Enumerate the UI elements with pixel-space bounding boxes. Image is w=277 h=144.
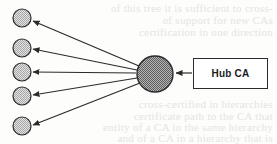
spoke-nodes-group [13, 9, 31, 135]
spoke-ca-node-1[interactable] [13, 9, 31, 27]
spoke-ca-node-2[interactable] [13, 39, 31, 57]
hub-ca-node[interactable] [137, 56, 173, 92]
spoke-arrows-group [33, 21, 140, 125]
arrow-hub-to-spoke-2 [33, 49, 137, 70]
spoke-ca-node-3[interactable] [13, 63, 31, 81]
figure-canvas: of this tree it is sufficient to cross- … [0, 0, 277, 144]
arrow-hub-to-spoke-5 [33, 83, 140, 125]
arrow-hub-to-spoke-4 [33, 78, 137, 95]
arrow-hub-to-spoke-3 [33, 72, 136, 73]
spoke-ca-node-4[interactable] [13, 87, 31, 105]
hub-ca-label-box: Hub CA [193, 58, 268, 89]
spoke-ca-node-5[interactable] [13, 117, 31, 135]
hub-ca-label-text: Hub CA [212, 68, 250, 79]
